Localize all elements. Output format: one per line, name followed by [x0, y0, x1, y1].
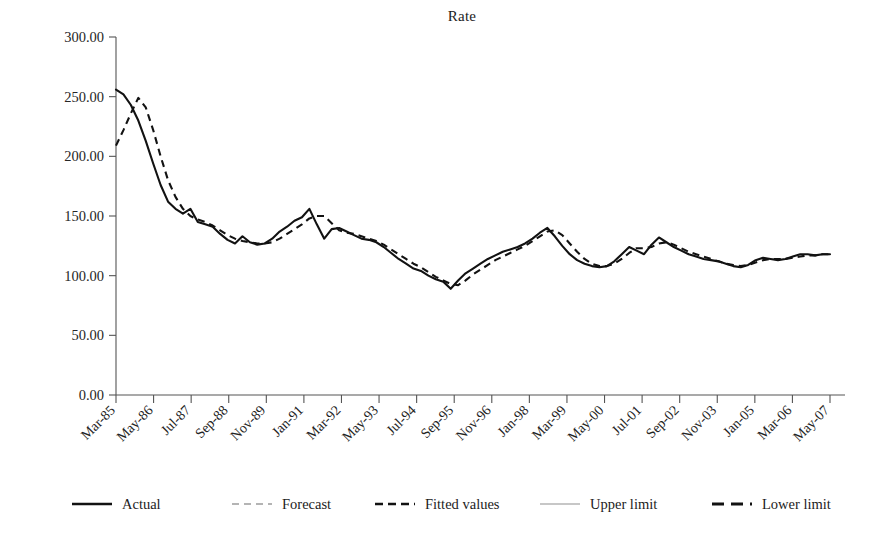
x-tick-label: May-93 — [339, 403, 381, 445]
legend-label: Upper limit — [590, 496, 657, 512]
x-tick-label: Jan-91 — [269, 403, 306, 440]
x-tick-label: Jan-05 — [720, 403, 757, 440]
x-tick-label: Sep-95 — [418, 403, 457, 442]
y-tick-label: 200.00 — [64, 148, 104, 164]
legend-label: Fitted values — [425, 496, 500, 512]
y-axis: 0.0050.00100.00150.00200.00250.00300.00 — [64, 29, 116, 403]
legend-item-actual[interactable]: Actual — [72, 496, 161, 512]
legend-item-upper-limit[interactable]: Upper limit — [540, 496, 657, 512]
series-line-fitted-values — [116, 98, 830, 285]
x-tick-label: Mar-85 — [78, 403, 118, 443]
chart-plot-area: 0.0050.00100.00150.00200.00250.00300.00 … — [0, 0, 888, 545]
x-tick-label: Mar-06 — [754, 403, 794, 443]
legend-item-forecast[interactable]: Forecast — [232, 496, 331, 512]
x-axis: Mar-85May-86Jul-87Sep-88Nov-89Jan-91Mar-… — [78, 395, 845, 444]
x-tick-label: Jul-01 — [609, 403, 644, 438]
legend-label: Lower limit — [762, 496, 831, 512]
y-tick-label: 0.00 — [79, 387, 104, 403]
x-tick-label: Jan-98 — [494, 403, 531, 440]
chart-figure: Rate 0.0050.00100.00150.00200.00250.0030… — [0, 0, 888, 545]
legend-item-lower-limit[interactable]: Lower limit — [712, 496, 831, 512]
x-tick-label: Nov-89 — [228, 403, 269, 444]
x-tick-label: May-86 — [114, 403, 156, 445]
x-tick-label: Jul-87 — [158, 403, 193, 438]
y-tick-label: 50.00 — [71, 327, 104, 343]
x-tick-label: Mar-99 — [529, 403, 569, 443]
x-tick-label: Sep-02 — [643, 403, 682, 442]
x-tick-label: Jul-94 — [383, 403, 418, 438]
legend-label: Forecast — [282, 496, 331, 512]
x-tick-label: Nov-96 — [453, 403, 494, 444]
y-tick-label: 150.00 — [64, 208, 104, 224]
x-tick-label: May-07 — [790, 403, 832, 445]
legend-item-fitted-values[interactable]: Fitted values — [375, 496, 500, 512]
series-line-actual — [116, 90, 830, 289]
y-tick-label: 100.00 — [64, 268, 104, 284]
y-tick-label: 300.00 — [64, 29, 104, 45]
x-tick-label: Sep-88 — [192, 403, 231, 442]
x-tick-label: Mar-92 — [303, 403, 343, 443]
x-tick-label: Nov-03 — [679, 403, 720, 444]
chart-legend: ActualForecastFitted valuesUpper limitLo… — [72, 496, 831, 512]
y-tick-label: 250.00 — [64, 89, 104, 105]
x-tick-label: May-00 — [565, 403, 607, 445]
data-series-group — [116, 90, 830, 289]
legend-label: Actual — [122, 496, 161, 512]
